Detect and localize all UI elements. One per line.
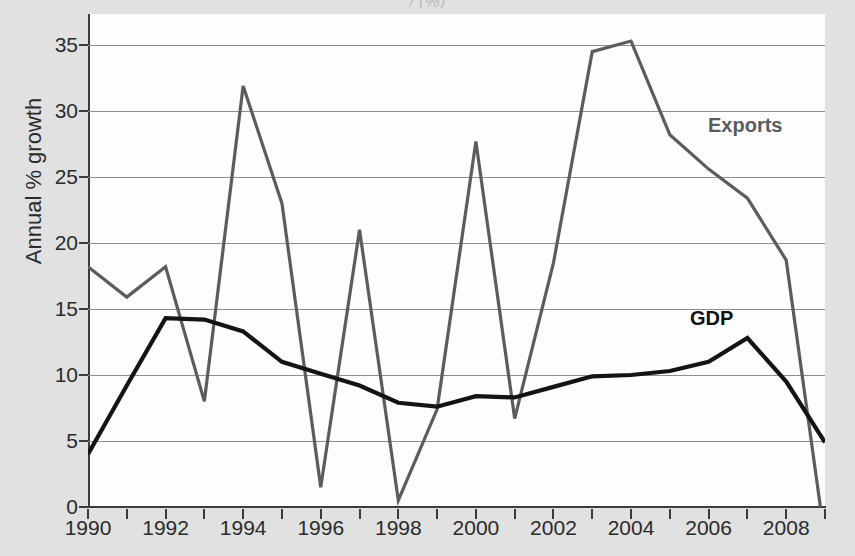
chart-svg	[0, 0, 855, 556]
y-tick-label: 10	[55, 363, 78, 387]
x-tick-label: 1998	[375, 516, 422, 540]
x-tick-label: 2002	[530, 516, 577, 540]
x-tick-label: 1996	[297, 516, 344, 540]
x-tick-label: 1992	[142, 516, 189, 540]
y-tick-label: 30	[55, 99, 78, 123]
x-tick-label: 1994	[220, 516, 267, 540]
x-tick-label: 2006	[685, 516, 732, 540]
y-tick-label: 15	[55, 297, 78, 321]
y-tick-label: 35	[55, 33, 78, 57]
x-tick-label: 2000	[453, 516, 500, 540]
x-tick-label: 2008	[763, 516, 810, 540]
x-tick-label: 1990	[65, 516, 112, 540]
y-axis-title: Annual % growth	[21, 61, 47, 301]
y-tick-label: 5	[66, 429, 78, 453]
figure-page: / (%) 05101520253035 Annual % growth 199…	[0, 0, 855, 556]
x-tick-label: 2004	[608, 516, 655, 540]
y-tick-label: 25	[55, 165, 78, 189]
y-tick-label: 20	[55, 231, 78, 255]
series-label-exports: Exports	[708, 114, 782, 137]
series-label-gdp: GDP	[690, 307, 733, 330]
